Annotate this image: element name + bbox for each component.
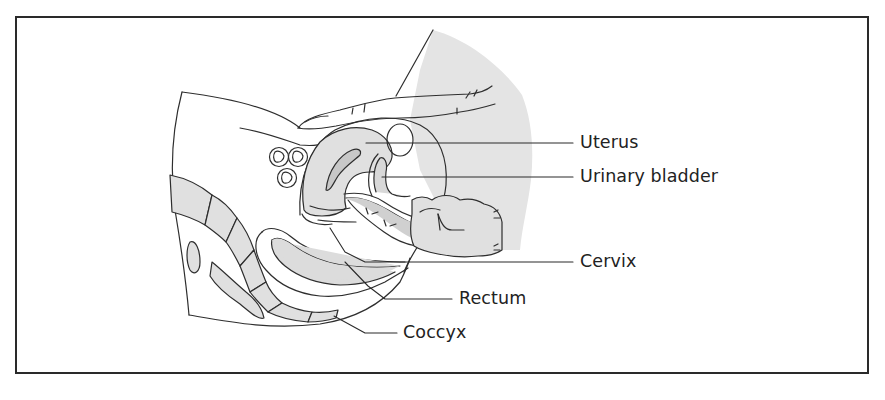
label-uterus: Uterus	[580, 134, 638, 152]
label-urinary-bladder: Urinary bladder	[580, 168, 718, 186]
label-rectum: Rectum	[459, 290, 526, 308]
vaginal-examining-hand	[411, 196, 502, 257]
label-cervix: Cervix	[580, 253, 636, 271]
label-coccyx: Coccyx	[403, 324, 466, 342]
